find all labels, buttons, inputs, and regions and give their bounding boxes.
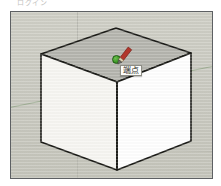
viewport-frame[interactable]: 端点 (10, 11, 213, 179)
cube-model[interactable] (11, 12, 212, 178)
endpoint-inference-tooltip: 端点 (120, 65, 142, 76)
header-text: ログイン (17, 0, 47, 6)
model-canvas[interactable]: 端点 (11, 12, 212, 178)
